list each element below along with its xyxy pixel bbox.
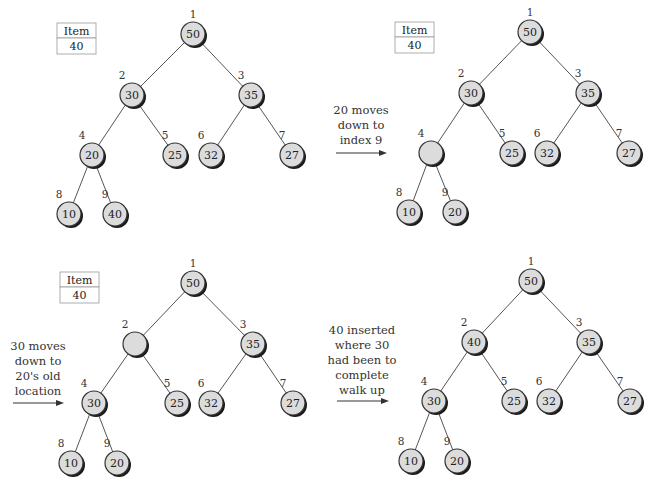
node-circle [123, 332, 147, 356]
node-value: 20 [448, 206, 462, 219]
step-caption: 40 insertedwhere 30had been tocompletewa… [328, 323, 397, 404]
heap-node: 255 [162, 129, 189, 169]
node-value: 32 [204, 149, 218, 162]
node-index: 3 [238, 69, 245, 81]
panel-step-3: 5012353304255326277108209Item4030 movesd… [10, 257, 307, 477]
node-value: 40 [467, 336, 481, 349]
heap-node: 277 [280, 377, 307, 417]
node-value: 27 [623, 395, 637, 408]
node-value: 32 [542, 395, 556, 408]
node-index: 9 [102, 188, 109, 200]
heap-node: 255 [164, 377, 191, 417]
node-index: 5 [499, 127, 506, 139]
node-index: 5 [501, 375, 508, 387]
item-box: Item40 [57, 23, 96, 54]
heap-node: 409 [102, 188, 129, 228]
heap-node: 4 [418, 127, 445, 167]
node-index: 8 [398, 435, 405, 447]
node-value: 30 [464, 87, 478, 100]
node-value: 50 [186, 28, 200, 41]
panel-step-1: 501302353204255326277108409Item40 [56, 8, 306, 228]
node-value: 50 [186, 277, 200, 290]
item-header: Item [402, 24, 428, 37]
heap-diagram: 501302353204255326277108409Item405013023… [0, 0, 664, 486]
caption-line: 20's old [15, 369, 61, 383]
heap-node: 108 [58, 437, 85, 477]
heap-node: 209 [442, 186, 469, 226]
node-index: 6 [198, 129, 205, 141]
node-index: 6 [198, 377, 205, 389]
heap-node: 277 [617, 375, 644, 415]
node-index: 8 [396, 186, 403, 198]
item-value: 40 [70, 40, 84, 53]
node-value: 27 [285, 149, 299, 162]
node-index: 7 [280, 377, 287, 389]
heap-node: 204 [79, 129, 106, 169]
item-value: 40 [73, 289, 87, 302]
node-index: 2 [461, 316, 468, 328]
node-index: 6 [536, 375, 543, 387]
caption-line: down to [15, 354, 62, 368]
heap-node: 108 [396, 186, 423, 226]
node-index: 5 [164, 377, 171, 389]
tree-edge [471, 32, 530, 93]
node-value: 10 [64, 457, 78, 470]
heap-node: 326 [198, 129, 225, 169]
arrow-right-icon [336, 150, 387, 156]
step-caption: 30 movesdown to20's oldlocation [10, 339, 65, 406]
caption-line: 40 inserted [329, 323, 396, 337]
node-index: 9 [444, 435, 451, 447]
heap-node: 353 [240, 318, 267, 358]
node-value: 25 [168, 149, 182, 162]
heap-node: 353 [575, 67, 602, 107]
heap-node: 501 [181, 257, 207, 297]
node-index: 6 [534, 127, 541, 139]
caption-line: location [15, 384, 62, 398]
caption-line: down to [338, 118, 385, 132]
node-value: 40 [108, 208, 122, 221]
panel-step-2: 5013023534255326277108209Item4020 movesd… [333, 6, 643, 226]
node-index: 8 [58, 437, 65, 449]
caption-line: 30 moves [10, 339, 65, 353]
arrow-right-icon [13, 400, 64, 406]
node-index: 2 [119, 69, 126, 81]
node-value: 10 [62, 208, 76, 221]
caption-line: where 30 [335, 338, 390, 352]
node-index: 4 [418, 127, 425, 139]
heap-node: 353 [576, 316, 603, 356]
tree-edge [135, 283, 193, 344]
node-value: 30 [427, 395, 441, 408]
heap-node: 501 [518, 6, 544, 46]
node-index: 1 [190, 257, 197, 269]
caption-line: complete [335, 368, 389, 382]
heap-node: 326 [534, 127, 561, 167]
heap-node: 255 [501, 375, 528, 415]
node-value: 50 [523, 26, 537, 39]
node-value: 25 [505, 147, 519, 160]
node-value: 20 [110, 457, 124, 470]
node-index: 9 [104, 437, 111, 449]
heap-node: 353 [238, 69, 265, 109]
heap-node: 326 [198, 377, 225, 417]
heap-node: 255 [499, 127, 526, 167]
node-index: 7 [617, 375, 624, 387]
heap-node: 277 [279, 129, 306, 169]
heap-node: 501 [181, 8, 207, 48]
item-value: 40 [408, 39, 422, 52]
node-value: 10 [404, 455, 418, 468]
heap-node: 304 [421, 375, 448, 415]
item-box: Item40 [60, 272, 99, 303]
node-index: 1 [527, 6, 534, 18]
heap-node: 302 [458, 67, 485, 107]
item-header: Item [64, 25, 90, 38]
node-index: 1 [528, 255, 535, 267]
heap-node: 326 [536, 375, 563, 415]
node-value: 20 [85, 149, 99, 162]
heap-node: 277 [616, 127, 643, 167]
step-caption: 20 movesdown toindex 9 [333, 103, 388, 156]
node-value: 32 [540, 147, 554, 160]
caption-line: index 9 [340, 133, 383, 147]
item-header: Item [67, 274, 93, 287]
node-value: 35 [246, 338, 260, 351]
caption-line: 20 moves [333, 103, 388, 117]
